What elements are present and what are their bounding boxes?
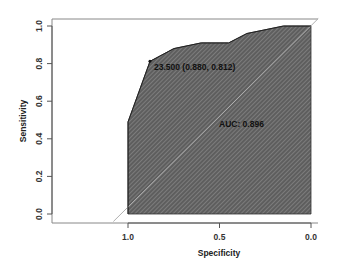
y-tick-label: 0.8 — [34, 57, 44, 69]
auc-label: AUC: 0.896 — [219, 119, 264, 129]
roc-chart: 23.500 (0.880, 0.812) AUC: 0.896 0.00.20… — [0, 0, 338, 272]
y-tick-label: 0.6 — [34, 95, 44, 107]
x-tick-label: 0.0 — [305, 232, 317, 242]
y-tick-label: 1.0 — [34, 20, 44, 32]
x-axis-title: Specificity — [198, 248, 241, 258]
roc-chart-svg: 23.500 (0.880, 0.812) AUC: 0.896 0.00.20… — [0, 0, 338, 272]
threshold-label: 23.500 (0.880, 0.812) — [154, 62, 235, 72]
y-axis: 0.00.20.40.60.81.0 — [34, 20, 52, 220]
y-tick-label: 0.2 — [34, 170, 44, 182]
y-axis-title: Sensitivity — [18, 99, 28, 142]
threshold-point — [148, 60, 151, 63]
x-tick-label: 0.5 — [214, 232, 226, 242]
y-tick-label: 0.4 — [34, 133, 44, 145]
y-tick-label: 0.0 — [34, 208, 44, 220]
x-tick-label: 1.0 — [122, 232, 134, 242]
x-axis: 1.00.50.0 — [122, 223, 317, 242]
